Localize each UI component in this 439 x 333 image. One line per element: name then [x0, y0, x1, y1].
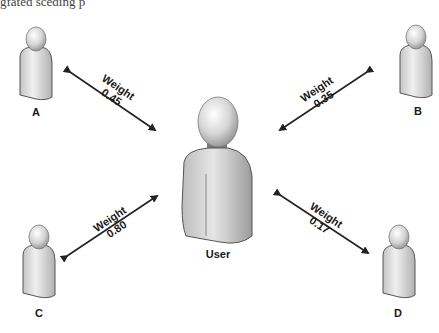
user-icon — [182, 97, 252, 243]
person-c-icon — [23, 225, 55, 298]
center-label-user: User — [196, 248, 240, 260]
person-b-icon — [400, 25, 432, 98]
node-label-a: A — [28, 106, 44, 118]
node-label-b: B — [410, 105, 426, 117]
node-label-d: D — [390, 307, 406, 319]
node-label-c: C — [31, 307, 47, 319]
diagram-canvas — [0, 0, 439, 333]
person-a-icon — [20, 27, 52, 100]
person-d-icon — [383, 225, 415, 298]
